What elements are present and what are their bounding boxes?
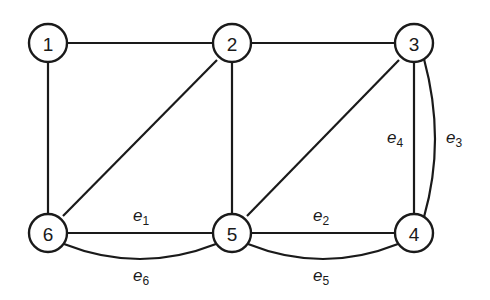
edge-3-5 bbox=[247, 60, 399, 216]
node-3: 3 bbox=[395, 24, 433, 62]
node-5: 5 bbox=[213, 214, 251, 252]
edge-e6-6-5 bbox=[64, 244, 216, 259]
edge-label-e3: e3 bbox=[446, 128, 462, 150]
edge-label-e5: e5 bbox=[313, 266, 329, 288]
node-4: 4 bbox=[395, 214, 433, 252]
svg-text:5: 5 bbox=[227, 224, 238, 245]
svg-text:3: 3 bbox=[409, 34, 420, 55]
edge-e3-3-4 bbox=[424, 59, 435, 217]
node-6: 6 bbox=[29, 214, 67, 252]
node-1: 1 bbox=[29, 24, 67, 62]
edge-2-6 bbox=[63, 60, 217, 216]
edge-label-e4: e4 bbox=[387, 128, 403, 150]
graph-svg: e1 e6 e2 e5 e4 e3 1 2 3 4 5 6 bbox=[0, 0, 490, 300]
node-2: 2 bbox=[213, 24, 251, 62]
svg-text:6: 6 bbox=[43, 224, 54, 245]
edge-label-e1: e1 bbox=[133, 206, 149, 228]
graph-diagram: e1 e6 e2 e5 e4 e3 1 2 3 4 5 6 bbox=[0, 0, 490, 300]
svg-text:1: 1 bbox=[43, 34, 54, 55]
edge-label-e6: e6 bbox=[133, 266, 149, 288]
svg-text:4: 4 bbox=[409, 224, 420, 245]
edge-e5-5-4 bbox=[248, 244, 398, 259]
edge-label-e2: e2 bbox=[313, 206, 329, 228]
svg-text:2: 2 bbox=[227, 34, 238, 55]
